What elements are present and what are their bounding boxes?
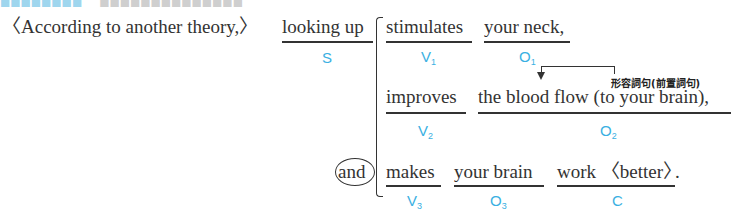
object2-text: the blood flow (to your brain), (478, 86, 709, 108)
verb1-label: V1 (421, 49, 436, 70)
adverbial-phrase: 〈According to another theory,〉 (2, 16, 258, 38)
arrow-vertical-right (614, 66, 615, 74)
verb2-label: V2 (418, 123, 433, 144)
subject-text: looking up (282, 16, 364, 38)
object3-text: your brain (454, 161, 533, 183)
verb2-underline (386, 112, 466, 114)
verb3-label: V3 (407, 193, 422, 214)
complement-text: work 〈better〉 (557, 161, 682, 183)
object2-underline (478, 112, 731, 114)
conjunction-circle (335, 158, 375, 186)
subject-underline (282, 41, 373, 43)
object1-label: O1 (519, 49, 536, 70)
object2-label: O2 (600, 123, 617, 144)
verb3-underline (386, 185, 441, 187)
complement-underline (557, 185, 675, 187)
arrow-down-icon (537, 72, 545, 80)
verb2-text: improves (386, 86, 457, 108)
object1-underline (484, 41, 570, 43)
verb1-underline (386, 41, 472, 43)
object1-text: your neck, (484, 16, 564, 38)
object3-underline (454, 185, 544, 187)
verb3-text: makes (386, 161, 435, 183)
parallel-bracket (376, 17, 383, 197)
subject-label: S (322, 50, 332, 66)
complement-label: C (612, 193, 623, 209)
sentence-end: . (675, 161, 680, 183)
object3-label: O3 (490, 193, 507, 214)
verb1-text: stimulates (386, 16, 463, 38)
arrow-horizontal (541, 66, 615, 67)
cut-off-header: ■■■■■■■■ ■■■■■■■■■■■■■■ (0, 0, 243, 4)
